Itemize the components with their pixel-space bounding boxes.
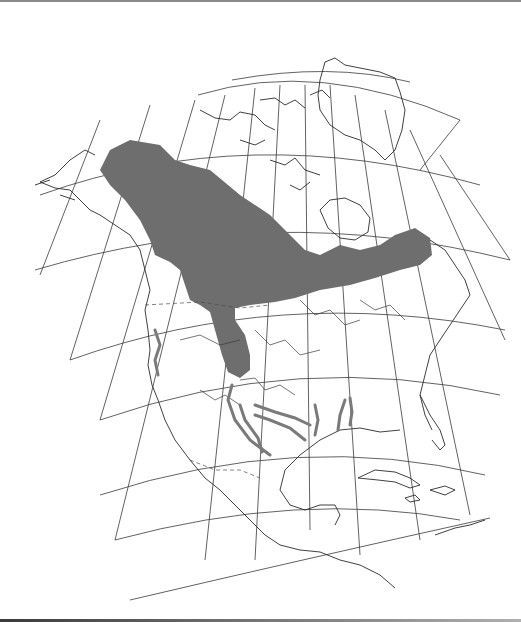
graticule-parallels	[35, 71, 510, 600]
disjunct-river-ranges	[155, 330, 352, 455]
primary-range-area	[100, 140, 432, 378]
range-map	[0, 0, 521, 622]
coastlines	[35, 58, 485, 588]
borders	[145, 302, 270, 478]
